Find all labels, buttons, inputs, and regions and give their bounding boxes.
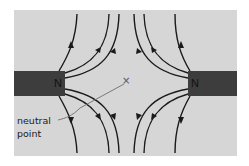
neutral-label-line2: point <box>17 127 51 140</box>
right-pole-label: N <box>191 76 199 90</box>
magnetic-field-diagram: N N × neutral point <box>0 0 249 166</box>
field-line <box>175 96 190 153</box>
field-line <box>175 14 190 71</box>
field-line <box>144 94 188 153</box>
field-line <box>59 14 77 71</box>
field-line <box>59 96 77 153</box>
neutral-point-marker: × <box>122 75 130 87</box>
field-line <box>65 89 119 153</box>
arrow-icon <box>95 113 101 120</box>
arrow-icon <box>68 117 74 124</box>
left-pole-label: N <box>54 76 62 90</box>
neutral-point-label: neutral point <box>17 114 51 140</box>
neutral-label-line1: neutral <box>17 114 51 127</box>
